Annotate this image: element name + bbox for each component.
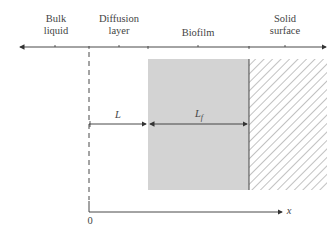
label-line: liquid	[28, 25, 84, 37]
L-dimension-arrow	[89, 121, 146, 127]
L-label: L	[111, 109, 125, 121]
x-axis	[89, 201, 282, 212]
x-axis-label: x	[284, 205, 294, 217]
label-line: Bulk	[28, 13, 84, 25]
Lf-label: Lf	[189, 108, 209, 124]
biofilm-region	[148, 59, 249, 190]
label-line: layer	[88, 25, 150, 37]
region-label-diffusion-layer: Diffusion layer	[88, 13, 150, 37]
region-label-solid-surface: Solid surface	[257, 13, 313, 37]
origin-label: 0	[84, 215, 96, 227]
region-label-biofilm: Biofilm	[170, 27, 226, 39]
region-axis	[20, 45, 326, 49]
region-label-bulk-liquid: Bulk liquid	[28, 13, 84, 37]
solid-surface-region	[249, 59, 327, 190]
label-line: Solid	[257, 13, 313, 25]
label-line: surface	[257, 25, 313, 37]
label-line: Diffusion	[88, 13, 150, 25]
Lf-subscript: f	[201, 113, 203, 122]
label-line: Biofilm	[170, 27, 226, 39]
